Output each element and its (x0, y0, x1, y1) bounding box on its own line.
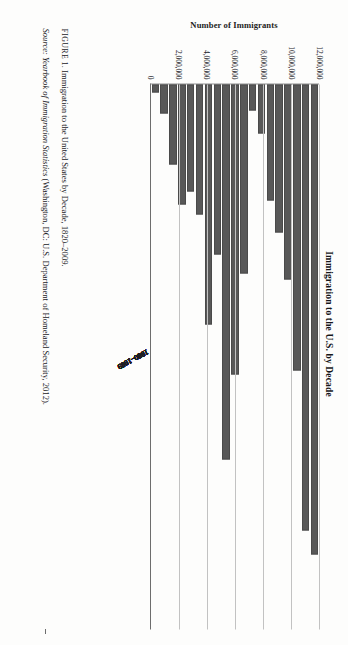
bar-slot (213, 84, 222, 629)
bar-slot (301, 84, 310, 629)
figure-caption-text: Immigration to the United States by Deca… (60, 70, 70, 266)
figure-chart: Immigration to the U.S. by Decade Number… (76, 18, 334, 629)
bar-slot (169, 84, 178, 629)
gridline (235, 84, 236, 629)
bar-slot (292, 84, 301, 629)
gridline (319, 84, 320, 629)
bar-slot (310, 84, 319, 629)
value-axis-title-text: Number of Immigrants (191, 20, 278, 30)
bar (293, 84, 300, 370)
bar-slot (275, 84, 284, 629)
bar-slot (239, 84, 248, 629)
value-axis-tick-label: 6,000,000 (230, 50, 239, 79)
bar-slot (222, 84, 231, 629)
source-title: Yearbook of Immigration Statistics (41, 57, 51, 176)
bar (161, 84, 168, 113)
bar-slot (266, 84, 275, 629)
bar-slot (160, 84, 169, 629)
gridline (179, 84, 180, 629)
category-tick-mark (45, 629, 46, 633)
page-content: Immigration to the U.S. by Decade Number… (0, 0, 348, 645)
bar-slot (248, 84, 257, 629)
plot-row: Number of Immigrants 12,000,00010,000,00… (150, 18, 319, 629)
bar-slot (204, 84, 213, 629)
bar (205, 84, 212, 324)
bar-slot (186, 84, 195, 629)
bar (249, 84, 256, 110)
value-axis-tick-label: 2,000,000 (174, 50, 183, 79)
figure-caption: FIGURE 1. Immigration to the United Stat… (58, 28, 70, 623)
gridline (291, 84, 292, 629)
bar (302, 84, 309, 530)
bar (222, 84, 229, 459)
source-rest: (Washington, DC: U.S. Department of Home… (41, 178, 51, 404)
value-axis-tick-label: 10,000,000 (286, 46, 295, 79)
bar (214, 84, 221, 254)
value-axis-title: Number of Immigrants (150, 18, 319, 31)
bar (258, 84, 265, 133)
bar (169, 84, 176, 164)
value-axis-tick-label: 4,000,000 (202, 50, 211, 79)
figure-label: FIGURE 1. (60, 28, 69, 68)
plot-area (150, 83, 319, 629)
bar (267, 84, 274, 200)
category-axis-labels: 2000–20091990–19991980–19891970–19791960… (76, 83, 150, 629)
gridline (207, 84, 208, 629)
bar-slot (151, 84, 160, 629)
bar-slot (195, 84, 204, 629)
bar (240, 84, 247, 273)
value-axis-tick-label: 8,000,000 (258, 50, 267, 79)
caption-block: FIGURE 1. Immigration to the United Stat… (40, 18, 70, 629)
scanned-page: Immigration to the U.S. by Decade Number… (0, 0, 348, 645)
bar (152, 84, 159, 92)
value-axis-tick-label: 0 (146, 75, 155, 79)
bar (275, 84, 282, 232)
source-word: Source: (41, 28, 51, 54)
source-line: Source: Yearbook of Immigration Statisti… (40, 28, 52, 623)
value-axis-tick-label: 12,000,000 (315, 46, 324, 79)
gridline (263, 84, 264, 629)
value-axis-ticks: 12,000,00010,000,0008,000,0006,000,0004,… (150, 31, 319, 83)
bar (196, 84, 203, 214)
bar (187, 84, 194, 191)
chart-title: Immigration to the U.S. by Decade (324, 18, 334, 629)
bar-slot (257, 84, 266, 629)
category-axis-tick-label: 1820–1829 (116, 347, 150, 371)
bar (311, 84, 318, 554)
